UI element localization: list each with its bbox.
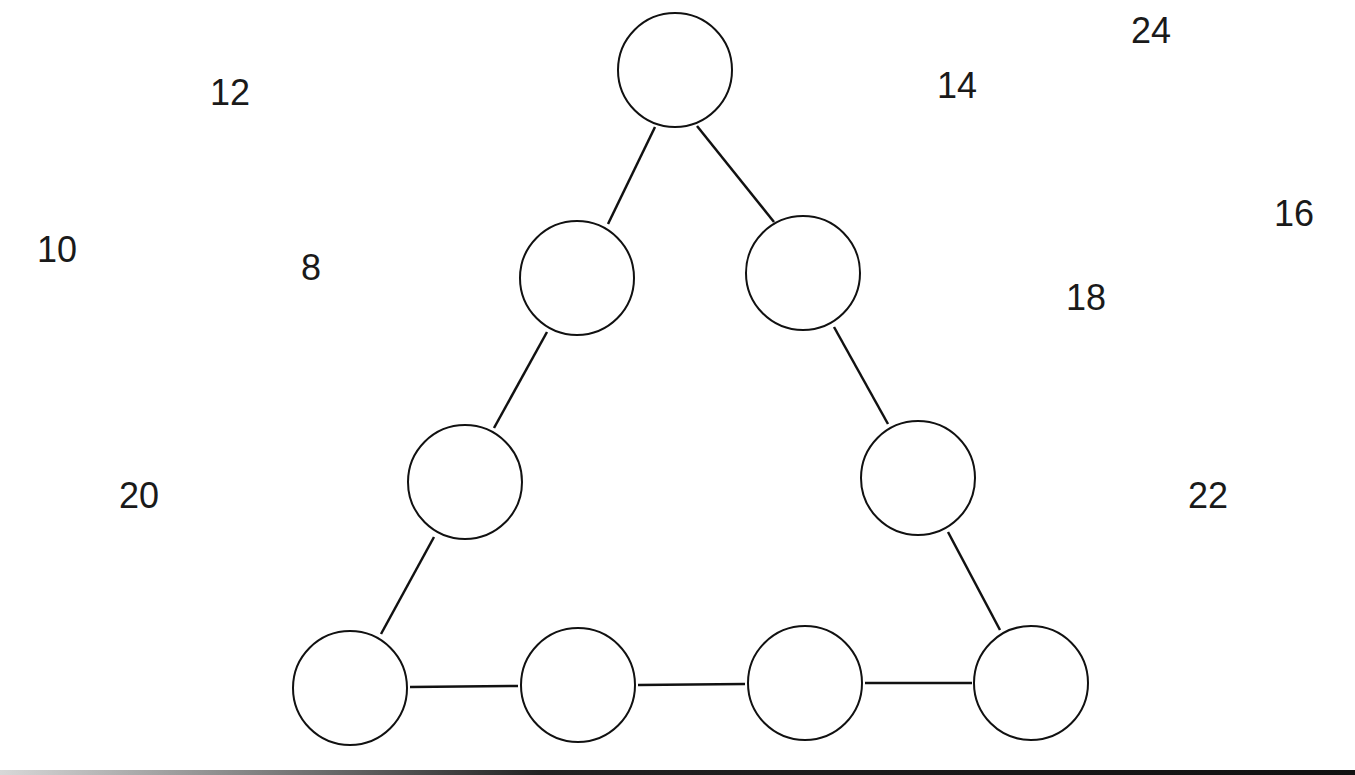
number-label: 8 <box>301 250 321 286</box>
number-label: 14 <box>937 68 977 104</box>
number-label: 18 <box>1066 280 1106 316</box>
number-label: 10 <box>37 232 77 268</box>
number-label: 12 <box>210 75 250 111</box>
circle-bottom-2[interactable] <box>520 627 636 743</box>
number-label: 24 <box>1131 13 1171 49</box>
circle-left-3[interactable] <box>407 424 523 540</box>
circle-right-3[interactable] <box>860 420 976 536</box>
circle-bottom-4[interactable] <box>973 625 1089 741</box>
circle-bottom-3[interactable] <box>747 625 863 741</box>
page-edge-divider <box>0 770 1355 775</box>
circle-right-2[interactable] <box>745 215 861 331</box>
number-label: 22 <box>1188 478 1228 514</box>
number-label: 20 <box>119 478 159 514</box>
circle-left-2[interactable] <box>519 220 635 336</box>
circle-top[interactable] <box>617 12 733 128</box>
circle-bottom-1[interactable] <box>292 630 408 746</box>
number-label: 16 <box>1274 196 1314 232</box>
